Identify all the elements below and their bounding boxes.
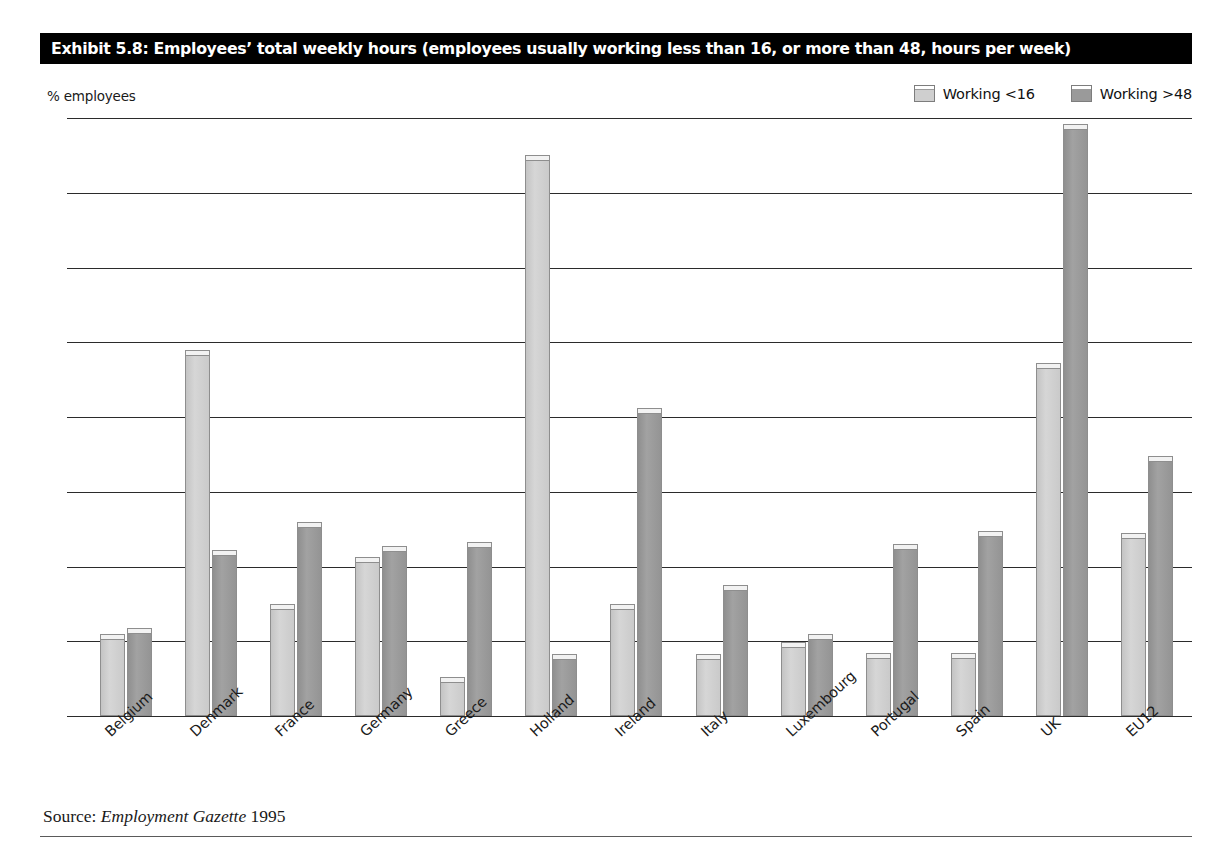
bar-greece-working-over-48[interactable] <box>467 542 492 716</box>
source-prefix: Source: <box>43 806 101 826</box>
y-tick-mark-12 <box>67 268 86 269</box>
bar-group-belgium <box>100 118 152 716</box>
bar-group-france <box>270 118 322 716</box>
source-note: Source: Employment Gazette 1995 <box>43 806 286 827</box>
bar-ireland-working-under-16[interactable] <box>610 604 635 716</box>
bar-spain-working-over-48[interactable] <box>978 531 1003 716</box>
bar-group-italy <box>696 118 748 716</box>
bar-denmark-working-under-16[interactable] <box>185 350 210 716</box>
bar-portugal-working-under-16[interactable] <box>866 653 891 716</box>
bar-uk-working-under-16[interactable] <box>1036 363 1061 716</box>
bar-eu12-working-under-16[interactable] <box>1121 533 1146 716</box>
legend-item-working-over-48[interactable]: Working >48 <box>1071 85 1192 102</box>
bar-group-greece <box>440 118 492 716</box>
bar-group-ireland <box>610 118 662 716</box>
legend-label-working-under-16: Working <16 <box>943 86 1035 102</box>
y-tick-mark-16 <box>67 118 86 119</box>
bar-group-uk <box>1036 118 1088 716</box>
bar-group-denmark <box>185 118 237 716</box>
y-tick-mark-6 <box>67 492 86 493</box>
bar-ireland-working-over-48[interactable] <box>637 408 662 716</box>
legend-swatch-icon-dark <box>1071 85 1092 102</box>
exhibit-page: Exhibit 5.8: Employees’ total weekly hou… <box>0 0 1225 854</box>
legend-swatch-icon-light <box>914 85 935 102</box>
source-journal: Employment Gazette <box>101 806 246 826</box>
y-tick-mark-4 <box>67 567 86 568</box>
bar-portugal-working-over-48[interactable] <box>893 544 918 716</box>
bar-italy-working-under-16[interactable] <box>696 654 721 716</box>
x-axis-label-uk: UK <box>1038 715 1063 740</box>
source-year: 1995 <box>246 806 285 826</box>
bar-group-spain <box>951 118 1003 716</box>
y-tick-mark-2 <box>67 641 86 642</box>
bar-group-holland <box>525 118 577 716</box>
bar-belgium-working-under-16[interactable] <box>100 634 125 716</box>
bar-germany-working-under-16[interactable] <box>355 557 380 716</box>
y-tick-mark-0 <box>67 716 86 717</box>
bar-france-working-under-16[interactable] <box>270 604 295 716</box>
y-tick-mark-10 <box>67 342 86 343</box>
bar-group-eu12 <box>1121 118 1173 716</box>
bar-italy-working-over-48[interactable] <box>723 585 748 716</box>
bar-group-germany <box>355 118 407 716</box>
bar-group-portugal <box>866 118 918 716</box>
y-tick-mark-8 <box>67 417 86 418</box>
bar-eu12-working-over-48[interactable] <box>1148 456 1173 716</box>
bar-spain-working-under-16[interactable] <box>951 653 976 716</box>
chart-plot-area: 0246810121416 <box>86 118 1192 716</box>
bar-luxembourg-working-under-16[interactable] <box>781 642 806 716</box>
footer-divider <box>40 836 1192 837</box>
chart-legend: Working <16 Working >48 <box>914 85 1192 102</box>
exhibit-title-bar: Exhibit 5.8: Employees’ total weekly hou… <box>40 33 1192 64</box>
bar-uk-working-over-48[interactable] <box>1063 124 1088 716</box>
legend-label-working-over-48: Working >48 <box>1100 86 1192 102</box>
bar-france-working-over-48[interactable] <box>297 522 322 716</box>
bar-group-luxembourg <box>781 118 833 716</box>
bar-holland-working-under-16[interactable] <box>525 155 550 716</box>
legend-item-working-under-16[interactable]: Working <16 <box>914 85 1035 102</box>
page-title: Exhibit 5.8: Employees’ total weekly hou… <box>51 39 1071 58</box>
y-tick-mark-14 <box>67 193 86 194</box>
y-axis-label: % employees <box>47 88 136 104</box>
